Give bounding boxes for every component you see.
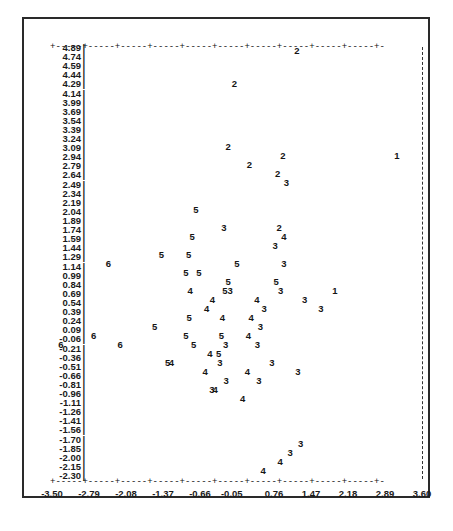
data-point-marker: 2 [280, 151, 285, 160]
data-point-marker: 4 [220, 313, 225, 322]
plot-canvas: +-----+-----+-----+-----+-----+-----+---… [24, 19, 428, 496]
data-point-marker: 3 [217, 358, 222, 367]
data-point-marker: 3 [281, 259, 286, 268]
data-point-marker: 2 [275, 169, 280, 178]
data-point-marker: 3 [298, 438, 303, 447]
data-point-marker: 3 [287, 447, 292, 456]
data-point-marker: 6 [106, 259, 111, 268]
data-point-marker: 5 [159, 250, 164, 259]
data-point-marker: 3 [295, 367, 300, 376]
data-point-marker: 5 [186, 250, 191, 259]
data-point-marker: 3 [256, 376, 261, 385]
data-point-marker: 5 [193, 205, 198, 214]
data-point-marker: 6 [58, 340, 63, 349]
data-point-marker: 2 [232, 79, 237, 88]
data-point-marker: 5 [234, 259, 239, 268]
chart-figure: +-----+-----+-----+-----+-----+-----+---… [22, 17, 430, 498]
data-point-marker: 5 [186, 313, 191, 322]
data-point-marker: 3 [223, 340, 228, 349]
data-point-marker: 5 [183, 331, 188, 340]
data-point-marker: 5 [191, 340, 196, 349]
data-point-marker: 3 [302, 295, 307, 304]
data-point-marker: 3 [223, 376, 228, 385]
data-point-marker: 3 [258, 322, 263, 331]
data-point-marker: 4 [260, 465, 265, 474]
data-point-marker: 4 [245, 367, 250, 376]
data-point-marker: 5 [190, 232, 195, 241]
data-point-marker: 5 [152, 322, 157, 331]
data-point-marker: 3 [221, 223, 226, 232]
data-point-marker: 3 [261, 304, 266, 313]
data-point-marker: 4 [281, 232, 286, 241]
data-point-marker: 3 [255, 340, 260, 349]
data-point-marker: 4 [246, 331, 251, 340]
data-point-marker: 4 [187, 286, 192, 295]
data-point-marker: 5 [196, 268, 201, 277]
data-point-marker: 3 [318, 304, 323, 313]
data-point-marker: 3 [269, 358, 274, 367]
data-point-marker: 4 [212, 385, 217, 394]
data-point-marker: 4 [203, 367, 208, 376]
data-point-marker: 3 [272, 241, 277, 250]
data-point-marker: 6 [118, 340, 123, 349]
data-point-marker: 3 [228, 286, 233, 295]
data-point-marker: 2 [225, 142, 230, 151]
data-point-marker: 4 [169, 358, 174, 367]
data-point-marker: 3 [284, 178, 289, 187]
data-point-marker: 1 [394, 151, 399, 160]
data-point-marker: 4 [240, 394, 245, 403]
data-point-marker: 6 [91, 331, 96, 340]
data-point-marker: 4 [254, 295, 259, 304]
data-point-marker: 4 [210, 295, 215, 304]
data-point-marker: 5 [183, 268, 188, 277]
data-points-layer: 2222221353254355653555545331443433544536… [24, 19, 428, 496]
data-point-marker: 2 [294, 46, 299, 55]
data-point-marker: 4 [278, 456, 283, 465]
data-point-marker: 1 [332, 286, 337, 295]
data-point-marker: 2 [247, 160, 252, 169]
data-point-marker: 4 [248, 313, 253, 322]
data-point-marker: 3 [278, 286, 283, 295]
data-point-marker: 4 [204, 304, 209, 313]
data-point-marker: 4 [207, 349, 212, 358]
